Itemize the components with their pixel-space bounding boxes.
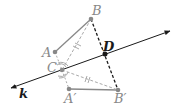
label-b-prime: B′ bbox=[113, 91, 127, 106]
label-a: A bbox=[41, 45, 51, 60]
segment-bc-dashed bbox=[62, 19, 91, 70]
tick-marks-bc bbox=[73, 43, 81, 49]
label-a-prime: A′ bbox=[63, 91, 76, 106]
label-c: C bbox=[47, 60, 57, 75]
segment-a-prime-b-prime bbox=[69, 89, 118, 90]
reflection-diagram: B A C D A′ B′ k bbox=[0, 0, 179, 112]
point-c bbox=[60, 68, 65, 73]
label-b: B bbox=[91, 3, 102, 18]
label-d: D bbox=[102, 39, 115, 54]
segment-cb-prime-dashed bbox=[62, 70, 118, 90]
point-a bbox=[53, 50, 58, 55]
segment-ab bbox=[55, 19, 91, 52]
label-line-k: k bbox=[19, 86, 28, 101]
line-k bbox=[11, 31, 170, 88]
